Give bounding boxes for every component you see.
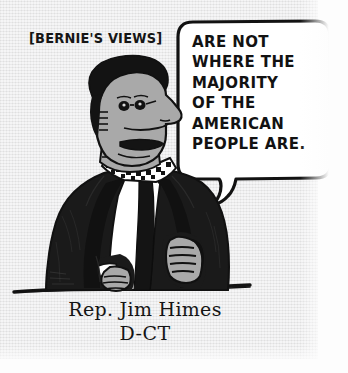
paper-edge-bottom xyxy=(0,345,348,373)
bernie-views-label: [BERNIE'S VIEWS] xyxy=(29,30,162,46)
caption-party: D-CT xyxy=(0,321,290,346)
cartoon-panel: [BERNIE'S VIEWS] ARE NOT WHERE THE MAJOR… xyxy=(0,0,348,373)
caption: Rep. Jim Himes D-CT xyxy=(0,297,290,346)
caption-name: Rep. Jim Himes xyxy=(0,297,290,321)
paper-edge-right xyxy=(300,0,348,373)
figure-head xyxy=(89,56,182,166)
figure-right-hand xyxy=(162,232,206,288)
